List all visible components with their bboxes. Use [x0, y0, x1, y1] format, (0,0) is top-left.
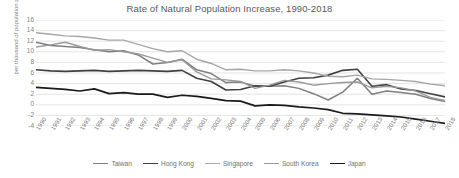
y-tick-label: 8 [20, 59, 34, 66]
y-tick-label: 10 [20, 48, 34, 55]
x-axis-ticks: 1990199119921993199419951996199719981999… [36, 126, 445, 160]
legend-item-singapore[interactable]: Singapore [205, 160, 253, 167]
series-line-singapore [36, 33, 445, 86]
legend-label: Japan [348, 160, 366, 167]
chart-container: Rate of Natural Population Increase, 199… [0, 0, 459, 178]
legend-swatch-icon [264, 163, 279, 164]
legend-swatch-icon [330, 163, 345, 164]
chart-legend: TaiwanHong KongSingaporeSouth KoreaJapan [0, 160, 459, 167]
y-tick-label: -2 [20, 112, 34, 119]
series-line-taiwan [36, 42, 445, 101]
legend-label: Hong Kong [161, 160, 194, 167]
plot-svg [36, 20, 445, 126]
legend-item-south-korea[interactable]: South Korea [264, 160, 319, 167]
legend-swatch-icon [205, 163, 220, 164]
y-tick-label: 16 [20, 17, 34, 24]
y-tick-label: 6 [20, 70, 34, 77]
y-tick-label: 0 [20, 101, 34, 108]
x-tick-label: 2018 [444, 116, 457, 131]
plot-area [36, 20, 445, 126]
y-tick-label: 12 [20, 38, 34, 45]
legend-item-taiwan[interactable]: Taiwan [93, 160, 132, 167]
legend-item-japan[interactable]: Japan [330, 160, 366, 167]
y-tick-label: 4 [20, 80, 34, 87]
y-tick-label: -4 [20, 123, 34, 130]
chart-title: Rate of Natural Population Increase, 199… [0, 3, 459, 14]
y-tick-label: 2 [20, 91, 34, 98]
y-axis-ticks: 1614121086420-2-4 [14, 0, 34, 178]
legend-label: Singapore [223, 160, 253, 167]
y-tick-label: 14 [20, 27, 34, 34]
series-line-hong-kong [36, 69, 445, 97]
legend-swatch-icon [143, 163, 158, 164]
legend-swatch-icon [93, 163, 108, 164]
legend-label: South Korea [282, 160, 319, 167]
legend-label: Taiwan [111, 160, 132, 167]
legend-item-hong-kong[interactable]: Hong Kong [143, 160, 194, 167]
